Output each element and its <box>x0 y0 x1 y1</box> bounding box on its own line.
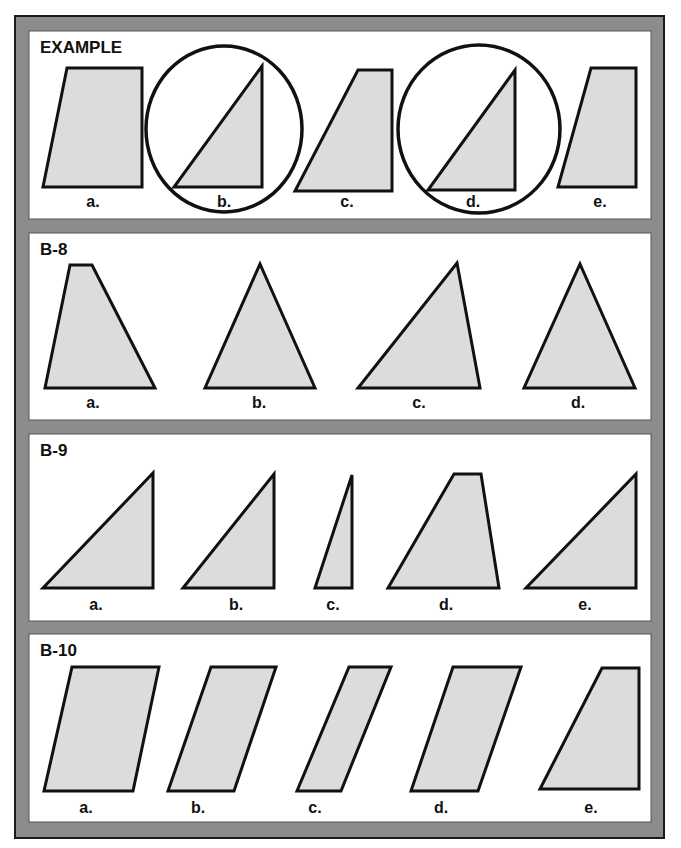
option-label: c. <box>340 193 353 211</box>
option-label: d. <box>466 193 480 211</box>
option-label: d. <box>439 596 453 614</box>
panel-title: EXAMPLE <box>40 38 122 58</box>
option-label: a. <box>89 596 102 614</box>
option-label: c. <box>412 394 425 412</box>
panel-title: B-8 <box>40 240 67 260</box>
panel-b-10 <box>29 634 651 822</box>
option-label: a. <box>86 394 99 412</box>
option-label: d. <box>434 799 448 817</box>
figure-canvas <box>0 0 681 848</box>
panel-b-8 <box>29 233 651 420</box>
option-label: e. <box>578 596 591 614</box>
panel-title: B-10 <box>40 641 77 661</box>
option-label: b. <box>229 596 243 614</box>
option-label: b. <box>252 394 266 412</box>
option-label: c. <box>326 596 339 614</box>
option-label: d. <box>571 394 585 412</box>
option-label: c. <box>308 799 321 817</box>
option-label: a. <box>79 799 92 817</box>
option-label: a. <box>86 193 99 211</box>
panel-example <box>29 31 651 219</box>
option-label: e. <box>584 799 597 817</box>
option-label: b. <box>191 799 205 817</box>
option-label: e. <box>593 193 606 211</box>
option-label: b. <box>217 193 231 211</box>
panel-b-9 <box>29 434 651 621</box>
panel-title: B-9 <box>40 441 67 461</box>
